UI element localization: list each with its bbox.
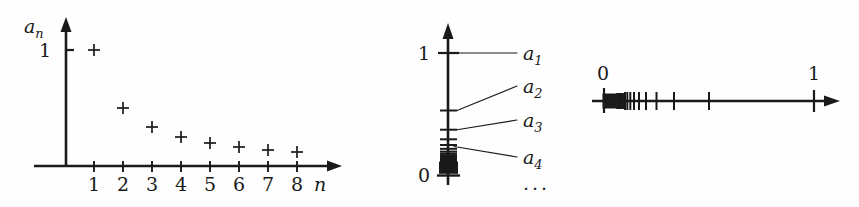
left-x-tick-label-8: 8	[291, 173, 303, 195]
right-label-0: 0	[597, 62, 609, 84]
left-y-axis-label: an	[24, 15, 44, 41]
left-x-tick-label-3: 3	[146, 173, 158, 195]
middle-annotation-a4: a4	[523, 146, 543, 172]
data-point-n4	[175, 131, 187, 143]
data-point-n5	[204, 137, 216, 149]
leader-a4	[454, 147, 517, 158]
right-number-line-panel: 0 1	[592, 62, 840, 113]
data-point-n6	[233, 141, 245, 153]
data-point-n8	[291, 146, 303, 158]
leader-a3	[457, 120, 517, 130]
left-y-axis	[61, 17, 72, 166]
data-point-n3	[146, 121, 158, 133]
left-x-tick-label-2: 2	[117, 173, 129, 195]
left-x-axis	[34, 161, 342, 172]
data-point-n1	[88, 44, 100, 56]
left-x-tick-label-1: 1	[88, 173, 100, 195]
left-x-tick-label-7: 7	[262, 173, 274, 195]
middle-vertical-axis-panel: a1 a2 a3 a4 ... 1 0	[418, 23, 550, 194]
middle-annotation-a1: a1	[523, 42, 543, 68]
sequence-convergence-figure: an 1 1 2 3 4 5 6 7 8 n	[0, 0, 859, 207]
right-label-1: 1	[808, 62, 820, 84]
middle-label-1: 1	[418, 42, 430, 64]
middle-axis-arrowhead	[443, 23, 454, 39]
left-x-tick-label-5: 5	[204, 173, 216, 195]
left-y-tick-label: 1	[39, 39, 51, 61]
data-point-n2	[117, 102, 129, 114]
middle-ellipsis: ...	[523, 172, 550, 194]
data-point-n7	[262, 144, 274, 156]
middle-annotation-a2: a2	[523, 75, 543, 101]
right-axis-arrowhead	[824, 96, 840, 107]
left-x-axis-label: n	[314, 173, 326, 195]
middle-leader-lines	[454, 53, 517, 157]
left-data-points	[88, 44, 303, 158]
middle-annotation-a3: a3	[523, 109, 543, 135]
left-x-tick-label-6: 6	[233, 173, 245, 195]
leader-a2	[457, 86, 517, 111]
left-x-tick-label-4: 4	[175, 173, 187, 195]
left-graph-panel: an 1 1 2 3 4 5 6 7 8 n	[24, 15, 342, 195]
middle-accumulation-block	[439, 162, 458, 174]
middle-label-0: 0	[418, 164, 430, 186]
